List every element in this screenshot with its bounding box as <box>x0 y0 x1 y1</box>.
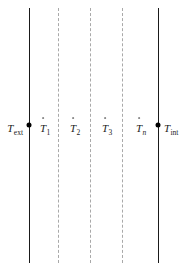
label-exterior-temperature: Text <box>7 123 22 134</box>
interface-line-1 <box>58 8 59 263</box>
interior-node-dot <box>156 123 161 128</box>
node-2-derivative-dot-icon <box>72 117 74 119</box>
node-3-temperature-letter: T <box>102 122 108 134</box>
exterior-node-dot <box>27 123 32 128</box>
node-n-derivative-dot-icon <box>138 117 140 119</box>
node-1-temperature-letter: T <box>40 122 46 134</box>
label-interior-temperature: Tint <box>164 123 178 134</box>
node-1-temperature-subscript: 1 <box>47 127 51 136</box>
node-1-temperature-symbol: T <box>40 123 46 134</box>
label-node-temperature-n: Tn <box>136 123 146 134</box>
exterior-temperature-letter: T <box>7 122 13 134</box>
exterior-temperature-subscript: ext <box>14 127 23 136</box>
label-node-temperature-3: T3 <box>102 123 112 134</box>
label-node-temperature-1: T1 <box>40 123 50 134</box>
node-n-temperature-subscript: n <box>143 127 147 136</box>
node-2-temperature-subscript: 2 <box>77 127 81 136</box>
thermal-network-diagram: Text T1 T2 T3 Tn Tint <box>0 0 185 273</box>
interior-temperature-subscript: int <box>170 127 178 136</box>
interior-temperature-symbol: T <box>164 123 170 134</box>
node-1-derivative-dot-icon <box>42 117 44 119</box>
node-2-temperature-symbol: T <box>70 123 76 134</box>
interface-line-3 <box>122 8 123 263</box>
interior-temperature-letter: T <box>164 122 170 134</box>
node-2-temperature-letter: T <box>70 122 76 134</box>
node-n-temperature-symbol: T <box>136 123 142 134</box>
node-3-temperature-subscript: 3 <box>109 127 113 136</box>
interior-surface-line <box>158 8 159 263</box>
node-n-temperature-letter: T <box>136 122 142 134</box>
node-3-temperature-symbol: T <box>102 123 108 134</box>
node-3-derivative-dot-icon <box>104 117 106 119</box>
interface-line-2 <box>90 8 91 263</box>
label-node-temperature-2: T2 <box>70 123 80 134</box>
exterior-surface-line <box>29 8 30 263</box>
exterior-temperature-symbol: T <box>7 123 13 134</box>
